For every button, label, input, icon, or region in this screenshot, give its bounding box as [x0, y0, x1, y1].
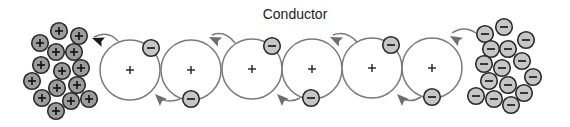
- flow-arrow-icon: [448, 29, 477, 46]
- negative-charge-icon: [518, 32, 535, 49]
- positive-ion-icon: [34, 90, 51, 107]
- negative-charge-icon: [483, 41, 500, 58]
- negative-charge-icon: [477, 26, 494, 43]
- positive-ion-icon: [49, 80, 66, 97]
- positive-ion-icon: [66, 44, 83, 61]
- negative-charge-cluster: [468, 19, 542, 114]
- electron-icon: [264, 38, 281, 55]
- negative-charge-icon: [481, 73, 498, 90]
- negative-charge-icon: [500, 41, 517, 58]
- electron-icon: [143, 40, 160, 57]
- electron-icon: [183, 91, 200, 108]
- positive-ion-icon: [51, 23, 68, 40]
- positive-charge-cluster: [24, 23, 98, 120]
- negative-charge-icon: [486, 91, 503, 108]
- positive-ion-icon: [71, 28, 88, 45]
- positive-ion-icon: [81, 91, 98, 108]
- positive-ion-icon: [48, 103, 65, 120]
- electron-icon: [424, 89, 441, 106]
- negative-charge-icon: [494, 60, 511, 77]
- positive-ion-icon: [69, 77, 86, 94]
- positive-ion-icon: [32, 35, 49, 52]
- negative-charge-icon: [503, 97, 520, 114]
- conductor-diagram: Conductor: [0, 0, 570, 127]
- positive-ion-icon: [24, 73, 41, 90]
- negative-charge-icon: [500, 77, 517, 94]
- positive-ion-icon: [63, 93, 80, 110]
- positive-ion-icon: [33, 57, 50, 74]
- positive-ion-icon: [54, 63, 71, 80]
- flow-arrow-icon: [207, 32, 235, 46]
- negative-charge-icon: [468, 88, 485, 105]
- negative-charge-icon: [476, 56, 493, 73]
- electron-icon: [303, 90, 320, 107]
- positive-ion-icon: [73, 60, 90, 77]
- diagram-title: Conductor: [0, 6, 570, 22]
- electron-icon: [383, 37, 400, 54]
- negative-charge-icon: [525, 69, 542, 86]
- negative-charge-icon: [514, 53, 531, 70]
- negative-charge-icon: [516, 85, 533, 102]
- positive-ion-icon: [48, 44, 65, 61]
